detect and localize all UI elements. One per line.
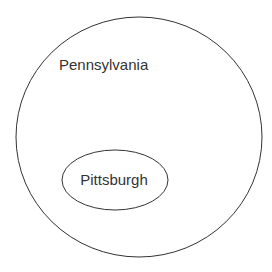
pennsylvania-circle — [16, 17, 262, 257]
euler-diagram: Pennsylvania Pittsburgh — [0, 0, 272, 272]
pennsylvania-label: Pennsylvania — [59, 56, 149, 73]
pittsburgh-label: Pittsburgh — [80, 171, 148, 188]
